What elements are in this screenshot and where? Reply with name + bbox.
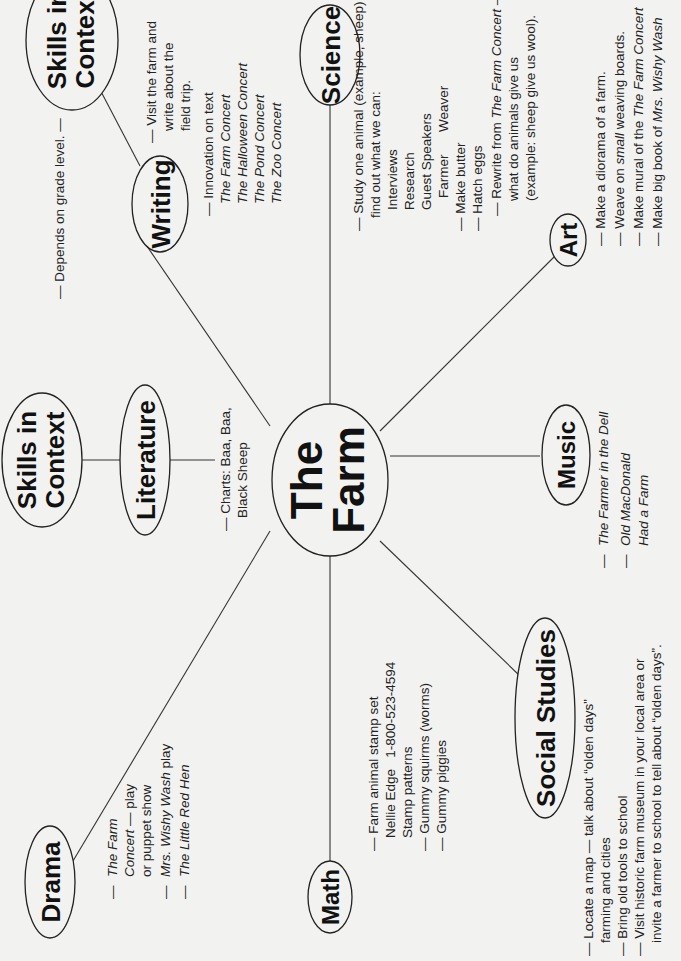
drama-label: Drama [36,841,66,922]
svg-text:Guest Speakers: Guest Speakers [419,113,434,210]
svg-text:Concert — play: Concert — play [122,784,137,877]
svg-text:The Farm: The Farm [105,818,120,877]
edge-center-social [380,541,520,676]
farm-web-diagram: The Farm Skills in Context Writing Scien… [0,0,681,961]
svg-text:write about the: write about the [161,42,176,132]
svg-text:Had a Farm: Had a Farm [636,475,651,546]
node-math: Math [308,861,352,933]
svg-text:— Charts: Baa, Baa,: — Charts: Baa, Baa, [218,407,233,531]
svg-text:Old MacDonald: Old MacDonald [618,452,633,546]
node-drama: Drama [25,826,75,938]
svg-text:— Hatch eggs: — Hatch eggs [470,145,485,231]
svg-text:— Make a diorama of a farm.: — Make a diorama of a farm. [593,71,608,246]
svg-text:The Farm Concert: The Farm Concert [218,93,233,204]
svg-text:Interviews: Interviews [385,149,400,210]
edge-center-art [380,256,555,431]
node-literature: Literature [120,385,170,535]
note-writing-innovation: — Innovation on text The Farm Concert Th… [201,62,284,216]
skills-left-line1: Skills in [12,411,42,509]
art-label: Art [555,223,582,258]
music-label: Music [553,421,580,489]
svg-text:Black Sheep: Black Sheep [235,442,250,518]
svg-text:Research: Research [402,152,417,210]
skills-top-line1: Skills in [42,0,72,89]
svg-text:— Make mural of the The Farm C: — Make mural of the The Farm Concert [631,6,646,246]
note-skills-depends: — Depends on grade level. — [52,118,67,299]
note-writing-visit: — Visit the farm and write about the fie… [144,21,193,143]
social-studies-label: Social Studies [531,629,561,807]
svg-text:—: — [618,554,633,568]
svg-text:— Make butter: — Make butter [453,142,468,231]
node-skills-in-context-writing: Skills in Context [26,0,118,110]
note-science: — Study one animal (example, sheep) and … [351,0,485,231]
skills-top-line2: Context [70,0,100,88]
svg-text:— Visit the farm and: — Visit the farm and [144,21,159,143]
svg-text:— Locate a map — talk about “o: — Locate a map — talk about “olden days” [581,699,596,956]
center-title-line2: Farm [324,426,373,534]
skills-left-line2: Context [40,411,70,508]
svg-text:find out what we can:: find out what we can: [368,91,383,218]
svg-text:The Little Red Hen: The Little Red Hen [177,764,192,877]
writing-label: Writing [146,159,176,248]
math-label: Math [317,869,344,925]
note-science-rewrite: — Rewrite from The Farm Concert — what d… [489,0,538,216]
note-art: — Make a diorama of a farm. — Weave on s… [593,6,665,246]
svg-text:or puppet show: or puppet show [139,784,154,877]
svg-text:farming and cities: farming and cities [598,837,613,943]
svg-text:invite a farmer to school to t: invite a farmer to school to tell about … [649,644,664,943]
svg-text:—: — [158,885,173,899]
science-label: Science [316,6,346,104]
node-art: Art [550,214,586,266]
svg-text:— Innovation on text: — Innovation on text [201,92,216,216]
svg-text:— Gummy squirms (worms): — Gummy squirms (worms) [417,683,432,851]
node-writing: Writing [132,156,188,252]
svg-text:The Zoo Concert: The Zoo Concert [269,101,284,204]
svg-text:— Study one animal (example, s: — Study one animal (example, sheep) and [351,0,366,231]
svg-text:The Pond Concert: The Pond Concert [252,93,267,204]
center-node: The Farm [272,404,388,556]
svg-text:—: — [596,554,611,568]
note-music: — The Farmer in the Dell — Old MacDonald… [596,411,651,568]
svg-text:—: — [105,885,120,899]
svg-text:— Weave on small weaving board: — Weave on small weaving boards. [612,31,627,246]
note-social-studies: — Locate a map — talk about “olden days”… [581,644,664,956]
svg-text:field trip.: field trip. [178,80,193,131]
svg-text:— Gummy piggies: — Gummy piggies [434,740,449,851]
svg-text:(example: sheep give us wool).: (example: sheep give us wool). [523,15,538,201]
svg-text:The Halloween Concert: The Halloween Concert [235,62,250,204]
note-drama: — The Farm Concert — play or puppet show… [105,744,192,899]
svg-text:— Visit historic farm museum i: — Visit historic farm museum in your loc… [632,658,647,956]
node-music: Music [542,405,590,505]
note-math: — Farm animal stamp set Nellie Edge 1-80… [366,661,449,851]
svg-text:The Farmer in the Dell: The Farmer in the Dell [596,411,611,546]
svg-text:Stamp patterns: Stamp patterns [400,746,415,838]
literature-label: Literature [131,400,161,520]
node-skills-in-context-literature: Skills in Context [2,393,82,527]
svg-text:Farmer Weaver: Farmer Weaver [436,85,451,198]
svg-text:Nellie Edge 1-800-523-4594: Nellie Edge 1-800-523-4594 [383,661,398,838]
note-literature: — Charts: Baa, Baa, Black Sheep [218,407,250,531]
svg-text:Mrs. Wishy Wash play: Mrs. Wishy Wash play [158,744,173,877]
svg-text:—: — [177,885,192,899]
svg-text:— Farm animal stamp set: — Farm animal stamp set [366,696,381,851]
svg-text:— Rewrite from The Farm Concer: — Rewrite from The Farm Concert — [489,0,504,216]
node-social-studies: Social Studies [515,618,575,818]
svg-text:what do animals give us: what do animals give us [506,57,521,202]
svg-text:— Bring old tools to school: — Bring old tools to school [615,795,630,956]
svg-text:— Make big book of Mrs. Wishy: — Make big book of Mrs. Wishy Wash [650,18,665,246]
